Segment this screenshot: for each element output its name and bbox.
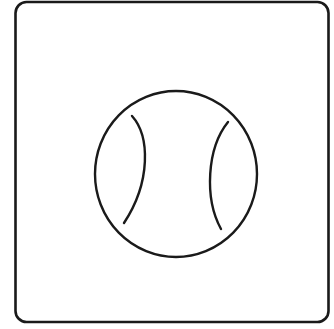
baseball-icon <box>0 0 334 329</box>
baseball-icon-tile <box>0 0 334 329</box>
rounded-square-border <box>16 2 329 322</box>
